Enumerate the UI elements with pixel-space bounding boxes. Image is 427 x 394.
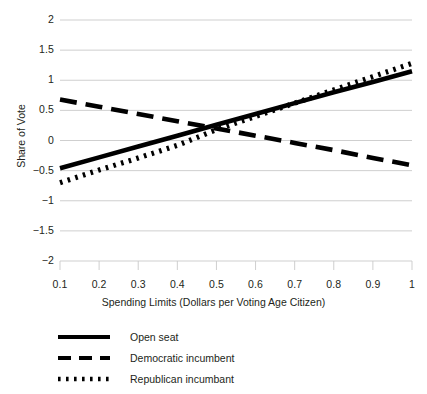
legend-label: Open seat	[130, 331, 178, 343]
chart-legend: Open seatDemocratic incumbentRepublican …	[56, 326, 356, 389]
legend-swatch-dashed	[56, 351, 112, 365]
chart-figure: 21.510.50−0.5−1−1.5−2 0.10.20.30.40.50.6…	[0, 0, 427, 394]
x-axis-title: Spending Limits (Dollars per Voting Age …	[0, 296, 427, 308]
y-axis-title: Share of Vote	[15, 76, 27, 196]
x-tick-label: 0.3	[131, 279, 146, 290]
x-tick-label: 1	[409, 279, 415, 290]
x-tick-label: 0.2	[92, 279, 107, 290]
x-tick-label: 0.7	[287, 279, 302, 290]
legend-label: Republican incumbant	[130, 373, 234, 385]
x-tick-label: 0.9	[365, 279, 380, 290]
x-tick-label: 0.8	[326, 279, 341, 290]
legend-label: Democratic incumbent	[130, 352, 234, 364]
x-tick-label: 0.6	[248, 279, 263, 290]
x-tick-label: 0.4	[170, 279, 185, 290]
legend-item[interactable]: Open seat	[56, 326, 356, 347]
legend-swatch-solid	[56, 330, 112, 344]
x-tick-label: 0.1	[53, 279, 68, 290]
x-tick-label: 0.5	[209, 279, 224, 290]
legend-item[interactable]: Republican incumbant	[56, 368, 356, 389]
legend-swatch-dotted	[56, 372, 112, 386]
legend-item[interactable]: Democratic incumbent	[56, 347, 356, 368]
